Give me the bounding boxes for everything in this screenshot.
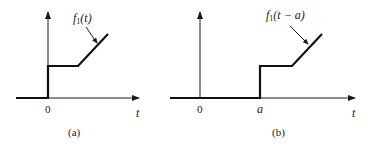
- x-axis-label-a: t: [136, 106, 140, 120]
- function-label-b: f1(t − a): [266, 8, 305, 23]
- caption-b: (b): [272, 126, 285, 139]
- panel-a: f1(t) 0 t (a): [16, 11, 140, 139]
- time-shift-diagram: f1(t) 0 t (a) f1(t − a) 0 a t (b): [0, 0, 376, 146]
- label-pointer-a: [86, 27, 97, 43]
- origin-label-a: 0: [45, 103, 51, 115]
- origin-label-b: 0: [197, 103, 203, 115]
- function-curve-a: [16, 34, 108, 98]
- function-label-a: f1(t): [73, 11, 92, 26]
- caption-a: (a): [68, 126, 81, 139]
- panel-b: f1(t − a) 0 a t (b): [170, 8, 356, 139]
- function-curve-b: [170, 34, 322, 98]
- shift-label-a: a: [257, 102, 263, 116]
- label-pointer-b: [290, 26, 308, 44]
- x-axis-label-b: t: [352, 106, 356, 120]
